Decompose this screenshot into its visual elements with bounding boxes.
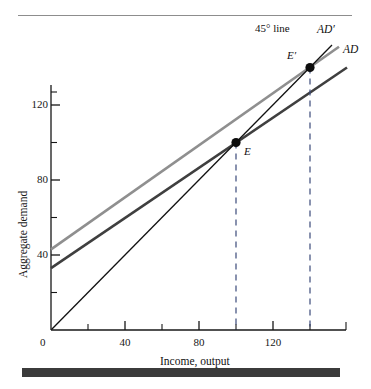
figure-container: 120 80 40 0 40 80 120 Income, output Agg… xyxy=(0,0,371,389)
y-axis-title: Aggregate demand xyxy=(18,191,30,278)
y-tick-label-80: 80 xyxy=(22,174,48,185)
curve-45-degree-line xyxy=(52,45,333,330)
origin-label: 0 xyxy=(40,337,46,348)
y-axis-minor-ticks xyxy=(51,92,57,293)
annotation-ad: AD xyxy=(343,44,358,56)
annotation-ad-prime: AD′ xyxy=(317,24,335,36)
y-axis-major-ticks xyxy=(51,105,60,255)
annotation-45-degree-line: 45° line xyxy=(255,23,290,34)
x-tick-label-120: 120 xyxy=(258,337,288,348)
x-tick-label-80: 80 xyxy=(184,337,214,348)
y-tick-label-120: 120 xyxy=(22,99,48,110)
chart-plot-area xyxy=(0,0,371,389)
point-e xyxy=(231,138,240,147)
curve-ad-prime xyxy=(51,47,339,250)
x-tick-label-40: 40 xyxy=(110,337,140,348)
x-axis-major-ticks xyxy=(125,321,273,330)
x-axis-title: Income, output xyxy=(160,356,230,368)
curve-ad xyxy=(51,68,347,269)
annotation-point-e-prime: E′ xyxy=(287,50,296,61)
bottom-solid-bar xyxy=(22,368,340,377)
point-e-prime xyxy=(305,63,314,72)
annotation-point-e: E xyxy=(244,146,251,157)
x-axis-minor-ticks xyxy=(88,322,346,330)
